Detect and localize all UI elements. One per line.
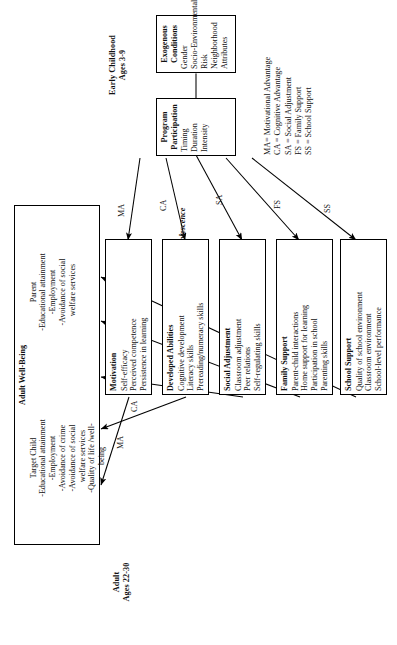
box-items: Timing Duration Intensity — [180, 102, 209, 152]
box-title: Social Adjustment — [223, 243, 233, 391]
box-developed-abilities[interactable]: Developed Abilities Cognitive developmen… — [162, 239, 209, 395]
box-social-adjustment[interactable]: Social Adjustment Classroom adjustment P… — [219, 239, 266, 395]
arrow-label-sa-lower: SA — [216, 195, 224, 205]
box-items: Cognitive development Literacy skills Pr… — [177, 243, 206, 391]
box-items: Quality of school environment Classroom … — [355, 243, 384, 391]
box-exogenous-conditions[interactable]: Exogenous Conditions Gender Socio-Enviro… — [156, 15, 236, 73]
arrow-label-ma-lower: MA — [118, 204, 126, 217]
box-title: School Support — [344, 243, 354, 391]
box-title: Adult Well-Being — [18, 209, 28, 541]
box-items: Self-efficacy Perceived competence Persi… — [120, 243, 149, 391]
box-title: Family Support — [280, 243, 290, 391]
outcome-group-target-child: Target Child -Educational attainment -Em… — [29, 419, 107, 497]
box-title: Exogenous Conditions — [160, 19, 179, 69]
stage-label-adult: Adult Ages 22-30 — [112, 537, 132, 627]
arrow-label-ss-lower: SS — [324, 204, 332, 213]
box-title: Program Participation — [160, 102, 179, 152]
group-name: Target Child — [29, 419, 39, 497]
box-motivation[interactable]: Motivation Self-efficacy Perceived compe… — [105, 239, 152, 395]
group-items: -Educational attainment -Employment -Avo… — [38, 419, 106, 497]
box-items: Gender Socio-Environmental Risk Neighbor… — [180, 19, 229, 69]
box-title: Developed Abilities — [166, 243, 176, 391]
diagram-canvas: Adult Ages 22-30 Early Childhood to Adol… — [0, 0, 397, 645]
stage-label-early: Early Childhood Ages 3-9 — [108, 15, 128, 115]
group-items: -Educational attainment -Employment -Avo… — [38, 253, 77, 331]
box-items: Parent-child interactions Home support f… — [291, 243, 330, 391]
box-adult-well-being[interactable]: Adult Well-Being Target Child -Education… — [14, 205, 100, 545]
legend-abbreviations: MA= Motivational Advantage CA = Cognitiv… — [263, 5, 314, 155]
arrow-label-ca-lower: CA — [160, 200, 168, 211]
box-program-participation[interactable]: Program Participation Timing Duration In… — [156, 98, 236, 156]
arrow-label-fs-lower: FS — [274, 200, 282, 209]
box-family-support[interactable]: Family Support Parent-child interactions… — [276, 239, 333, 395]
arrow-label-ma-upper: MA — [117, 436, 125, 449]
box-items: Classroom adjustment Peer relations Self… — [234, 243, 263, 391]
arrow-label-ca-upper: CA — [131, 401, 139, 412]
box-title: Motivation — [109, 243, 119, 391]
box-school-support[interactable]: School Support Quality of school environ… — [340, 239, 387, 395]
outcome-group-parent: Parent -Educational attainment -Employme… — [29, 253, 78, 331]
group-name: Parent — [29, 253, 39, 331]
